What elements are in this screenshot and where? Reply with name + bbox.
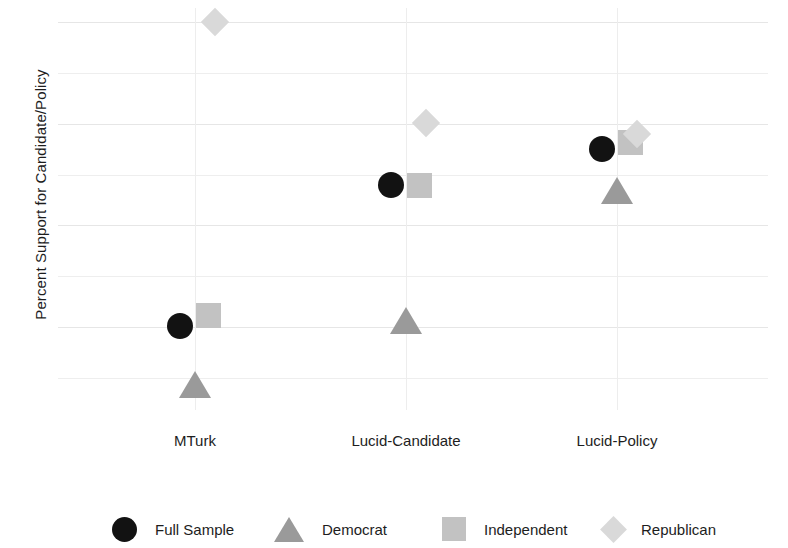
x-tick-label: Lucid-Candidate: [296, 432, 516, 449]
legend-item-independent[interactable]: Independent: [442, 510, 567, 548]
legend-item-full-sample[interactable]: Full Sample: [112, 510, 234, 548]
gridline-major: [58, 22, 768, 23]
scatter-chart: Percent Support for Candidate/Policy 102…: [0, 0, 788, 548]
gridline-minor: [58, 73, 768, 74]
legend-square-icon: [442, 517, 466, 541]
legend-diamond-icon: [600, 516, 627, 543]
data-point-circle: [167, 313, 193, 339]
data-point-square: [196, 303, 221, 328]
legend-label: Republican: [641, 521, 716, 538]
y-axis-title: Percent Support for Candidate/Policy: [32, 15, 49, 375]
plot-area: 10203040MTurkLucid-CandidateLucid-Policy: [58, 8, 768, 410]
x-tick-label: Lucid-Policy: [507, 432, 727, 449]
data-point-triangle: [390, 307, 422, 334]
data-point-diamond: [201, 8, 229, 36]
legend-label: Independent: [484, 521, 567, 538]
legend-label: Full Sample: [155, 521, 234, 538]
gridline-vertical: [406, 8, 407, 410]
gridline-vertical: [195, 8, 196, 410]
data-point-triangle: [601, 177, 633, 204]
legend-item-democrat[interactable]: Democrat: [274, 510, 387, 548]
gridline-minor: [58, 276, 768, 277]
data-point-circle: [378, 172, 404, 198]
data-point-triangle: [179, 371, 211, 398]
legend-triangle-icon: [274, 517, 304, 542]
gridline-minor: [58, 378, 768, 379]
legend-item-republican[interactable]: Republican: [604, 510, 716, 548]
x-tick-label: MTurk: [85, 432, 305, 449]
gridline-major: [58, 225, 768, 226]
legend-label: Democrat: [322, 521, 387, 538]
legend-circle-icon: [112, 517, 137, 542]
gridline-vertical: [617, 8, 618, 410]
data-point-square: [407, 173, 432, 198]
chart-legend: Full SampleDemocratIndependentRepublican: [0, 510, 788, 548]
data-point-circle: [589, 136, 615, 162]
data-point-diamond: [412, 108, 440, 136]
